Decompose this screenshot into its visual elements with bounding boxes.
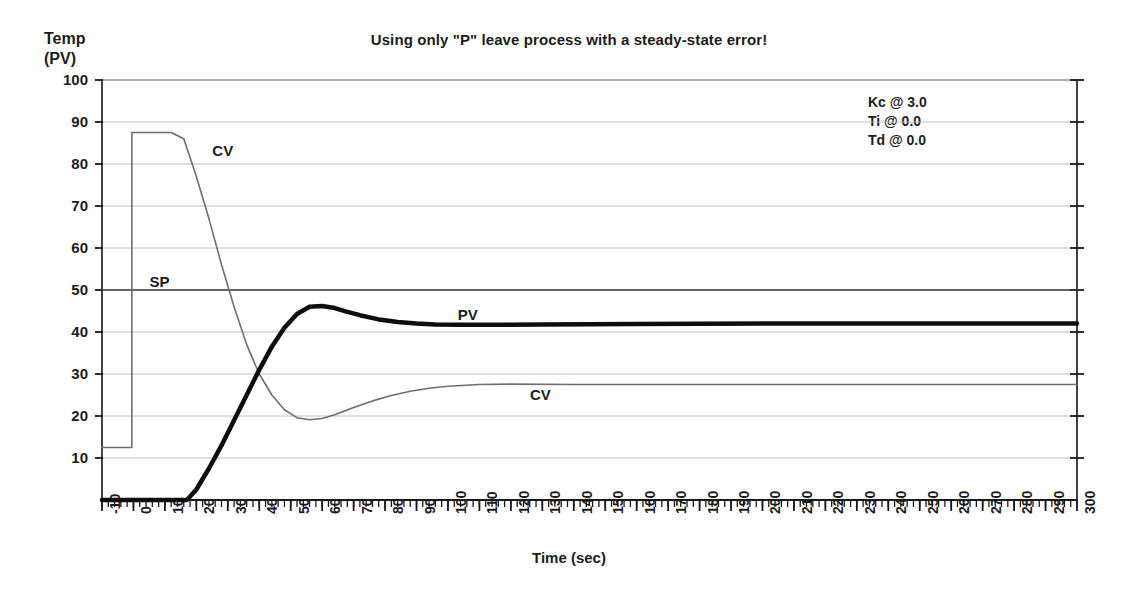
series-line-pv	[102, 306, 1077, 500]
gridlines	[102, 80, 1077, 458]
x-axis-ticks	[102, 500, 1077, 511]
chart-container: Using only "P" leave process with a stea…	[0, 0, 1138, 599]
plot-area	[0, 0, 1138, 599]
data-series	[102, 133, 1077, 501]
